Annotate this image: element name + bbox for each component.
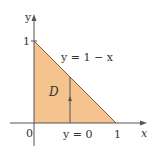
- origin-label: 0: [26, 127, 33, 140]
- y-tick-label: 1: [23, 35, 30, 48]
- x-tick-label: 1: [114, 128, 121, 141]
- upper-curve-label: y = 1 − x: [60, 51, 114, 64]
- y-axis-arrow-icon: [32, 14, 37, 21]
- region-label: D: [48, 85, 59, 99]
- x-axis-label: x: [141, 127, 148, 140]
- lower-curve-label: y = 0: [62, 128, 92, 141]
- y-axis-label: y: [24, 11, 32, 24]
- x-axis-arrow-icon: [140, 121, 147, 126]
- double-integral-region-diagram: y 1 0 1 x y = 1 − x y = 0 D: [0, 0, 159, 155]
